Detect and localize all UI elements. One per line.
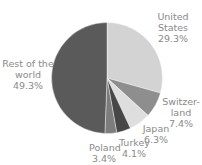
- label-value: 4.1%: [119, 148, 149, 159]
- label-value: 49.3%: [2, 80, 54, 91]
- label-text: land: [161, 107, 201, 118]
- pie-slice-rest-of-the-world: [52, 23, 107, 134]
- label-text: Japan: [142, 123, 170, 134]
- label-text: Poland: [89, 142, 119, 153]
- label-text: States: [150, 22, 196, 33]
- label-united-states: United States 29.3%: [150, 11, 196, 44]
- label-rest-of-world: Rest of the world 49.3%: [2, 58, 54, 91]
- label-value: 3.4%: [89, 153, 119, 164]
- label-text: world: [2, 69, 54, 80]
- label-text: Turkey: [119, 137, 149, 148]
- label-poland: Poland 3.4%: [89, 142, 119, 164]
- label-text: Switzer-: [161, 96, 201, 107]
- label-value: 29.3%: [150, 33, 196, 44]
- label-text: Rest of the: [2, 58, 54, 69]
- label-text: United: [150, 11, 196, 22]
- label-turkey: Turkey 4.1%: [119, 137, 149, 159]
